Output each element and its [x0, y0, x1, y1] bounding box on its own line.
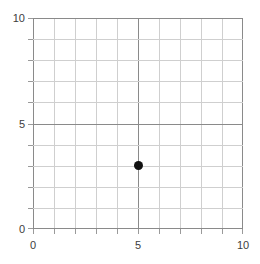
scatter-plot-figure: 05100510 [0, 0, 260, 264]
y-axis-tick [28, 166, 33, 167]
plot-area: 05100510 [33, 18, 243, 229]
y-axis-tick [28, 39, 33, 40]
x-axis-tick [54, 229, 55, 234]
gridline-horizontal [33, 124, 243, 125]
data-point [134, 161, 143, 170]
y-axis-tick [28, 81, 33, 82]
x-axis-tick [201, 229, 202, 234]
x-axis-label: 10 [237, 240, 249, 251]
x-axis-tick [242, 229, 243, 234]
gridline-horizontal [33, 60, 243, 61]
x-axis-tick [117, 229, 118, 234]
y-axis-tick [28, 18, 33, 19]
gridline-horizontal [33, 102, 243, 103]
gridline-horizontal [33, 208, 243, 209]
y-axis-tick [28, 187, 33, 188]
y-axis-tick [28, 145, 33, 146]
x-axis-tick [159, 229, 160, 234]
gridline-horizontal [33, 18, 243, 19]
gridlines [33, 18, 243, 229]
y-axis-tick [28, 124, 33, 125]
x-axis-tick [33, 229, 34, 234]
x-axis-tick [75, 229, 76, 234]
y-axis-label: 5 [19, 119, 25, 130]
x-axis-tick [222, 229, 223, 234]
y-axis-tick [28, 208, 33, 209]
gridline-horizontal [33, 81, 243, 82]
x-axis-tick [180, 229, 181, 234]
x-axis-label: 0 [30, 240, 36, 251]
y-axis-tick [28, 228, 33, 229]
gridline-horizontal [33, 39, 243, 40]
gridline-horizontal [33, 145, 243, 146]
y-axis-tick [28, 60, 33, 61]
x-axis-tick [96, 229, 97, 234]
x-axis-label: 5 [135, 240, 141, 251]
y-axis-label: 10 [13, 13, 25, 24]
y-axis-label: 0 [19, 224, 25, 235]
x-axis-tick [138, 229, 139, 234]
y-axis-tick [28, 102, 33, 103]
gridline-horizontal [33, 187, 243, 188]
